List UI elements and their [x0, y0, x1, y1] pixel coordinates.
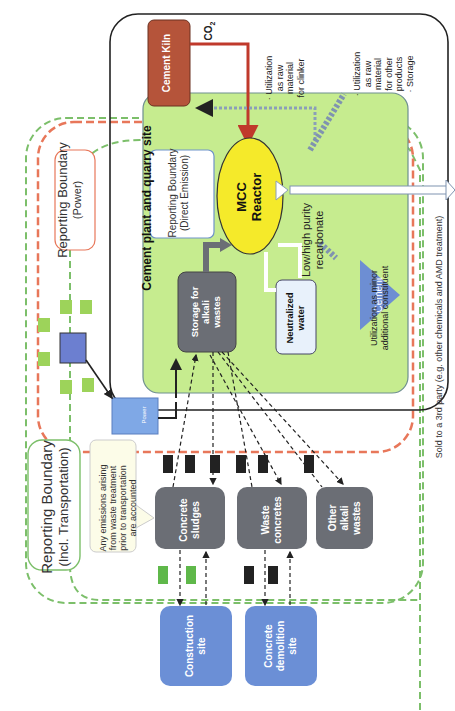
storage-label: Storage for alkali wastes [189, 281, 225, 343]
third-party-label: Sold to a 3rd party (e.g. other chemical… [434, 172, 448, 502]
waste-label-sludges: Concrete sludges [178, 490, 202, 550]
note-text: Any emissions arising from waste treatme… [98, 453, 138, 563]
note-line: prior to transportation [118, 453, 128, 563]
power-boundary-label: Reporting Boundary (Power) [55, 140, 89, 260]
site-label: Cement plant and quarry site [140, 98, 156, 318]
transport-boundary-title: Reporting Boundary [38, 427, 55, 587]
transport-boundary-sub: (Incl. Transportation) [55, 427, 72, 587]
waste-label-concretes: Waste concretes [260, 490, 284, 550]
storage-line: alkali [200, 281, 211, 343]
product-label: Low/high purity recarbonate [300, 185, 328, 295]
use-line: products [394, 36, 405, 112]
waste-line: Other [327, 491, 339, 545]
waste-line: sludges [190, 490, 202, 550]
use-line: · Utilization [352, 36, 363, 112]
use-minor: Utilization as minor additional constitu… [369, 253, 393, 363]
transformer-icon [60, 333, 86, 363]
use-line: material [285, 40, 296, 116]
note-line: Any emissions arising [98, 453, 108, 563]
source-label-demolition: Concrete demolition site [263, 611, 299, 681]
waste-line: alkali [339, 491, 351, 545]
co2-label: CO2 [203, 16, 217, 46]
use-line: as raw [363, 36, 374, 112]
note-line: are accounted [128, 453, 138, 563]
use-line: · Storage [405, 36, 416, 112]
use-clinker: · Utilization as raw material for clinke… [264, 40, 312, 116]
waste-line: Waste [260, 490, 272, 550]
use-other-products: · Utilization as raw material for other … [352, 36, 418, 112]
direct-emission-title: Reporting Boundary [167, 145, 179, 241]
reactor-line: Reactor [249, 161, 264, 233]
source-line: Concrete [263, 611, 275, 681]
use-line: Utilization as minor [369, 253, 380, 363]
transport-boundary-label: Reporting Boundary (Incl. Transportation… [38, 427, 74, 587]
use-line: for other [384, 36, 395, 112]
power-boundary-sub: (Power) [70, 140, 85, 260]
waste-line: Concrete [178, 490, 190, 550]
storage-line: Storage for [189, 281, 200, 343]
use-line: as raw [275, 40, 286, 116]
co2-sub: 2 [209, 22, 216, 26]
reactor-line: MCC [234, 161, 249, 233]
storage-line: wastes [211, 281, 222, 343]
water-line: Neutralized [284, 284, 295, 352]
power-boundary-title: Reporting Boundary [55, 140, 70, 260]
waste-label-other: Other alkali wastes [327, 491, 363, 545]
waste-line: wastes [351, 491, 363, 545]
use-line: · Utilization [264, 40, 275, 116]
source-label-construction: Construction site [184, 611, 208, 681]
power-icon-label: Power [141, 400, 151, 430]
note-line: from waste treatment [108, 453, 118, 563]
source-line: site [196, 611, 208, 681]
use-line: additional constituent [380, 253, 391, 363]
source-line: demolition [275, 611, 287, 681]
reactor-label: MCC Reactor [234, 161, 266, 233]
power-icon [112, 398, 158, 434]
source-line: Construction [184, 611, 196, 681]
use-line: material [373, 36, 384, 112]
product-line: Low/high purity [300, 185, 313, 295]
direct-emission-label: Reporting Boundary (Direct Emission) [167, 145, 197, 241]
product-line: recarbonate [313, 185, 326, 295]
direct-emission-sub: (Direct Emission) [179, 145, 191, 241]
use-line: for clinker [296, 40, 307, 116]
co2-text: CO [203, 25, 214, 40]
kiln-label: Cement Kiln [161, 23, 177, 103]
waste-line: concretes [272, 490, 284, 550]
source-line: site [287, 611, 299, 681]
